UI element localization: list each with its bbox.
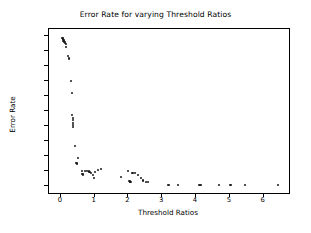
scatter-point (72, 119, 74, 121)
x-axis-tick-label: 6 (253, 196, 273, 204)
scatter-point (120, 176, 122, 178)
plot-area (48, 28, 290, 194)
scatter-point (147, 181, 149, 183)
scatter-point (218, 184, 220, 186)
scatter-point (168, 184, 170, 186)
x-axis-tick-label: 5 (219, 196, 239, 204)
scatter-point (229, 184, 231, 186)
scatter-point (71, 114, 73, 116)
scatter-point (129, 181, 131, 183)
scatter-point (68, 58, 70, 60)
x-axis-tick-label: 0 (50, 196, 70, 204)
scatter-point (137, 174, 139, 176)
scatter-point (65, 43, 67, 45)
scatter-point (76, 162, 78, 164)
scatter-point (65, 46, 67, 48)
scatter-point (74, 145, 76, 147)
chart-title: Error Rate for varying Threshold Ratios (0, 10, 311, 19)
scatter-point (93, 177, 95, 179)
scatter-point (70, 80, 72, 82)
scatter-point (71, 92, 73, 94)
scatter-point (81, 170, 83, 172)
scatter-point (92, 174, 94, 176)
scatter-point (82, 174, 84, 176)
scatter-point (244, 184, 246, 186)
scatter-point (200, 184, 202, 186)
scatter-points-layer (49, 29, 289, 193)
x-axis-tick-label: 2 (117, 196, 137, 204)
chart-figure: Error Rate for varying Threshold Ratios … (0, 0, 311, 233)
scatter-point (77, 157, 79, 159)
x-axis-label: Threshold Ratios (48, 208, 288, 217)
y-axis-label: Error Rate (8, 85, 17, 145)
scatter-point (127, 170, 129, 172)
scatter-point (134, 172, 136, 174)
scatter-point (72, 126, 74, 128)
x-axis-tick-label: 3 (151, 196, 171, 204)
scatter-point (177, 184, 179, 186)
scatter-point (97, 169, 99, 171)
scatter-point (94, 171, 96, 173)
scatter-point (277, 184, 279, 186)
x-axis-tick-label: 1 (84, 196, 104, 204)
x-axis-tick-label: 4 (185, 196, 205, 204)
scatter-point (100, 168, 102, 170)
